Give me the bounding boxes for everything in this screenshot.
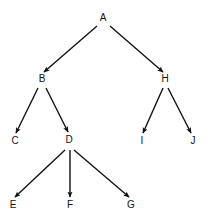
tree-node-a[interactable]: A xyxy=(100,12,107,23)
tree-edge-d-g xyxy=(74,150,129,197)
tree-edge-h-i xyxy=(143,88,163,133)
tree-node-g[interactable]: G xyxy=(127,199,135,210)
tree-edge-a-h xyxy=(110,26,163,72)
edges-group xyxy=(15,26,191,197)
tree-edge-a-b xyxy=(44,26,97,72)
tree-edge-b-d xyxy=(46,88,68,132)
tree-node-e[interactable]: E xyxy=(10,199,17,210)
tree-node-c[interactable]: C xyxy=(11,135,18,146)
nodes-group: ABHCDIJEFG xyxy=(10,12,196,210)
tree-edge-d-e xyxy=(15,150,65,197)
tree-diagram-canvas: ABHCDIJEFG xyxy=(0,0,209,219)
tree-edge-b-c xyxy=(16,88,38,133)
tree-node-i[interactable]: I xyxy=(141,135,144,146)
tree-node-h[interactable]: H xyxy=(161,73,168,84)
tree-node-b[interactable]: B xyxy=(39,73,46,84)
tree-edge-h-j xyxy=(168,88,191,133)
tree-diagram: ABHCDIJEFG xyxy=(0,0,209,219)
tree-node-d[interactable]: D xyxy=(65,134,72,145)
tree-node-f[interactable]: F xyxy=(67,199,73,210)
tree-node-j[interactable]: J xyxy=(191,135,196,146)
